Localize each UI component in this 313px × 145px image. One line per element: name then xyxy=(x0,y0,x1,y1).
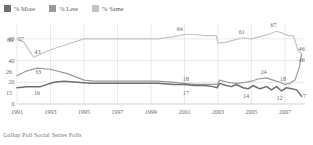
legend-item-more[interactable]: % More xyxy=(4,5,35,12)
data-label-18: 7 xyxy=(303,92,306,99)
x-tick-label-1991: 1991 xyxy=(11,109,23,115)
chart-screenshot: % More % Less % Same 0204060199119931995… xyxy=(0,0,313,145)
x-tick-label-1993: 1993 xyxy=(44,109,56,115)
legend-label-same: % Same xyxy=(102,5,123,12)
data-label-12: 46 xyxy=(299,56,305,63)
data-label-15: 17 xyxy=(183,89,189,96)
plot-area: 0204060199119931995199719992001200320052… xyxy=(0,16,313,121)
legend-swatch-more xyxy=(4,5,11,12)
data-label-16: 14 xyxy=(243,92,249,99)
data-label-11: 18 xyxy=(280,75,286,82)
data-label-1: 57 xyxy=(18,35,24,42)
chart-legend: % More % Less % Same xyxy=(4,2,124,14)
line-chart: 0204060199119931995199719992001200320052… xyxy=(0,16,313,121)
x-tick-label-1999: 1999 xyxy=(145,109,157,115)
y-tick-label-40: 40 xyxy=(9,58,15,64)
data-label-10: 24 xyxy=(260,68,266,75)
legend-label-more: % More xyxy=(14,5,35,12)
x-tick-label-1997: 1997 xyxy=(111,109,123,115)
data-label-4: 61 xyxy=(239,28,245,35)
legend-label-less: % Less xyxy=(59,5,78,12)
data-label-14: 16 xyxy=(34,89,40,96)
data-label-8: 33 xyxy=(35,68,41,75)
series-line-same xyxy=(17,31,302,57)
y-tick-label-0: 0 xyxy=(12,101,15,107)
data-label-6: 46 xyxy=(299,45,305,52)
data-label-3: 64 xyxy=(177,25,183,32)
y-tick-label-20: 20 xyxy=(9,79,15,85)
x-tick-label-2003: 2003 xyxy=(212,109,224,115)
x-tick-label-2001: 2001 xyxy=(178,109,190,115)
source-note: Gallup Poll Social Series Polls xyxy=(3,131,81,138)
x-tick-label-1995: 1995 xyxy=(78,109,90,115)
data-label-0: 60 xyxy=(7,36,13,43)
data-label-17: 12 xyxy=(276,94,282,101)
legend-swatch-less xyxy=(49,5,56,12)
legend-swatch-same xyxy=(92,5,99,12)
series-line-less xyxy=(17,54,302,84)
data-label-13: 15 xyxy=(6,89,12,96)
data-label-2: 43 xyxy=(34,48,40,55)
x-tick-label-2007: 2007 xyxy=(279,109,291,115)
legend-item-less[interactable]: % Less xyxy=(49,5,78,12)
legend-item-same[interactable]: % Same xyxy=(92,5,123,12)
x-tick-label-2005: 2005 xyxy=(245,109,257,115)
data-label-7: 26 xyxy=(6,68,12,75)
series-line-more xyxy=(17,81,302,96)
data-label-9: 18 xyxy=(183,75,189,82)
data-label-5: 67 xyxy=(270,21,276,28)
